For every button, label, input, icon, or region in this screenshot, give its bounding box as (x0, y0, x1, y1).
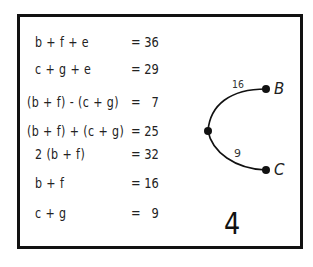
node-b-label: B (274, 80, 284, 98)
branch-graph (0, 0, 313, 267)
node-c-label: C (274, 161, 284, 179)
lower-edge-label: 9 (234, 147, 241, 160)
junction-node (204, 127, 212, 135)
upper-edge (208, 89, 266, 131)
node-b (262, 85, 270, 93)
upper-edge-label: 16 (232, 78, 244, 91)
node-c (262, 166, 270, 174)
panel-number: 4 (224, 206, 240, 241)
